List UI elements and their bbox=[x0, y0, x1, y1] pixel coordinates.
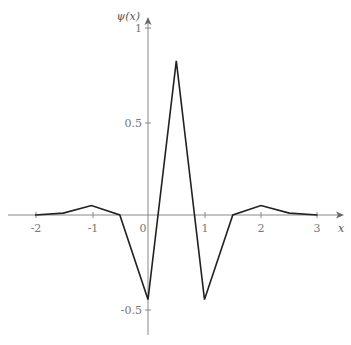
x-tick-label: -2 bbox=[31, 222, 42, 235]
psi-curve bbox=[35, 61, 318, 300]
x-tick-label: -1 bbox=[88, 222, 99, 235]
x-tick-label: 0 bbox=[140, 222, 147, 235]
x-tick-label: 2 bbox=[258, 222, 265, 235]
y-tick-label: 0.5 bbox=[125, 117, 143, 130]
y-tick-label: 1 bbox=[135, 22, 142, 35]
y-axis-label: ψ(x) bbox=[117, 10, 140, 23]
x-tick-label: 3 bbox=[314, 222, 321, 235]
x-axis-label: x bbox=[338, 222, 345, 235]
chart: -2 -1 0 1 2 3 1 0.5 -0.5 ψ(x) x bbox=[0, 0, 351, 345]
y-tick-label: -0.5 bbox=[121, 304, 142, 317]
x-tick-label: 1 bbox=[202, 222, 209, 235]
